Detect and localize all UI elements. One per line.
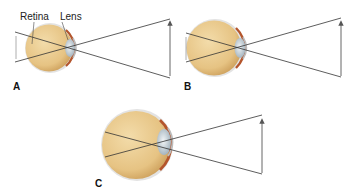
panel-label-c: C [95, 179, 102, 189]
retina-label: Retina [20, 12, 49, 22]
eye-diagram [0, 0, 355, 193]
lens-label: Lens [60, 12, 82, 22]
panel-label-b: B [184, 82, 191, 92]
lens-c [157, 129, 171, 155]
panel-label-a: A [13, 82, 20, 92]
panel-c-eye [101, 109, 173, 181]
